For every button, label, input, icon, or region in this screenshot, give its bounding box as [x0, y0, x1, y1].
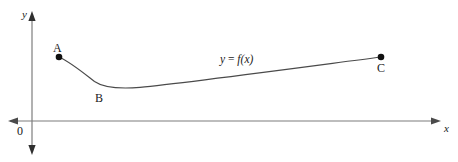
y-axis-label: y	[22, 9, 27, 20]
y-axis-down-arrow-icon	[28, 145, 35, 155]
point-label-b: B	[95, 92, 103, 104]
curve-equation-label: y = f(x)	[220, 54, 253, 66]
figure-canvas: y x 0 A B C y = f(x)	[0, 0, 458, 162]
graph-svg	[0, 0, 458, 162]
curve-equation-operator: =	[225, 53, 237, 65]
curve-equation-rhs: f(x)	[237, 53, 253, 65]
point-label-a: A	[53, 42, 62, 54]
point-marker-c	[378, 54, 385, 61]
x-axis-label: x	[444, 123, 449, 134]
x-axis-right-arrow-icon	[431, 117, 441, 124]
origin-label: 0	[17, 125, 23, 137]
y-axis-up-arrow-icon	[28, 11, 35, 21]
point-label-c: C	[377, 62, 385, 74]
